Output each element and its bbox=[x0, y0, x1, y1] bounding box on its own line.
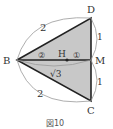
length-mc: 1 bbox=[97, 77, 103, 87]
figure-caption: 図10 bbox=[46, 119, 64, 128]
length-dm: 1 bbox=[97, 32, 103, 42]
triangle-diagram: D B M C H 2 2 1 1 √3 ② ① 図10 bbox=[0, 0, 113, 129]
point-h bbox=[65, 58, 68, 61]
ratio-hm: ① bbox=[73, 51, 80, 60]
label-c: C bbox=[87, 105, 95, 116]
label-m: M bbox=[95, 55, 105, 66]
label-b: B bbox=[3, 55, 10, 66]
length-bc: 2 bbox=[37, 88, 43, 99]
length-bd: 2 bbox=[40, 22, 46, 33]
label-h: H bbox=[58, 49, 66, 59]
length-bm: √3 bbox=[50, 69, 62, 79]
label-d: D bbox=[87, 4, 95, 15]
ratio-bh: ② bbox=[38, 51, 45, 60]
